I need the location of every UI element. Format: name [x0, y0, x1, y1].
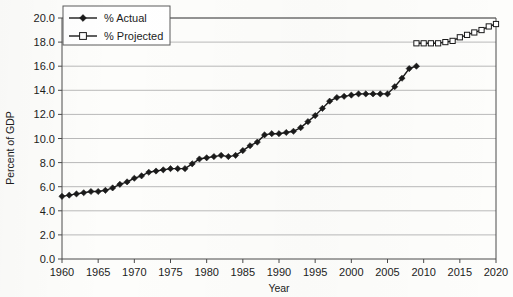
- data-point-actual: [225, 153, 231, 159]
- data-point-actual: [413, 63, 419, 69]
- data-point-projected: [486, 24, 491, 29]
- y-tick-label: 20.0: [34, 12, 55, 24]
- data-point-actual: [88, 188, 94, 194]
- x-tick-label: 2005: [375, 266, 399, 278]
- data-point-projected: [436, 41, 441, 46]
- x-axis-ticks: 1960196519701975198019851990199520002005…: [50, 259, 508, 278]
- data-point-projected: [464, 32, 469, 37]
- x-tick-label: 1980: [194, 266, 218, 278]
- data-point-actual: [269, 131, 275, 137]
- data-point-projected: [479, 27, 484, 32]
- data-point-actual: [66, 192, 72, 198]
- y-tick-label: 8.0: [40, 157, 55, 169]
- data-point-actual: [153, 168, 159, 174]
- x-tick-label: 1970: [122, 266, 146, 278]
- data-point-actual: [131, 175, 137, 181]
- data-point-actual: [160, 167, 166, 173]
- y-tick-label: 18.0: [34, 36, 55, 48]
- data-point-actual: [167, 166, 173, 172]
- data-point-actual: [341, 93, 347, 99]
- x-tick-label: 1985: [231, 266, 255, 278]
- data-point-actual: [81, 190, 87, 196]
- x-tick-label: 2015: [448, 266, 472, 278]
- legend-label-1: % Projected: [104, 30, 163, 42]
- y-axis-title: Percent of GDP: [4, 111, 16, 185]
- data-point-actual: [334, 94, 340, 100]
- y-tick-label: 12.0: [34, 108, 55, 120]
- data-point-projected: [457, 35, 462, 40]
- y-tick-label: 10.0: [34, 133, 55, 145]
- gdp-line-chart: 0.02.04.06.08.010.012.014.016.018.020.0 …: [0, 0, 513, 297]
- data-point-actual: [204, 155, 210, 161]
- series-line-actual: [62, 66, 416, 196]
- data-point-actual: [348, 92, 354, 98]
- data-point-projected: [414, 41, 419, 46]
- data-point-actual: [124, 179, 130, 185]
- y-axis-ticks: 0.02.04.06.08.010.012.014.016.018.020.0: [34, 12, 62, 265]
- data-point-projected: [443, 40, 448, 45]
- data-point-actual: [290, 128, 296, 134]
- legend-label-0: % Actual: [104, 12, 147, 24]
- data-point-actual: [355, 91, 361, 97]
- data-point-actual: [73, 191, 79, 197]
- legend-marker-open-square-icon: [80, 33, 87, 40]
- x-axis-title: Year: [268, 282, 290, 294]
- data-point-actual: [102, 187, 108, 193]
- x-tick-label: 1960: [50, 266, 74, 278]
- data-point-actual: [175, 166, 181, 172]
- x-tick-label: 1975: [158, 266, 182, 278]
- y-tick-label: 6.0: [40, 181, 55, 193]
- y-tick-label: 2.0: [40, 229, 55, 241]
- data-point-projected: [428, 41, 433, 46]
- data-point-actual: [59, 193, 65, 199]
- data-series: [59, 21, 499, 199]
- y-tick-label: 4.0: [40, 205, 55, 217]
- data-point-projected: [450, 38, 455, 43]
- data-point-actual: [138, 173, 144, 179]
- chart-legend: % Actual% Projected: [63, 6, 170, 45]
- data-point-actual: [276, 131, 282, 137]
- y-tick-label: 14.0: [34, 84, 55, 96]
- data-point-projected: [421, 41, 426, 46]
- data-point-actual: [146, 169, 152, 175]
- y-tick-label: 0.0: [40, 253, 55, 265]
- data-point-actual: [363, 91, 369, 97]
- data-point-actual: [110, 185, 116, 191]
- y-tick-label: 16.0: [34, 60, 55, 72]
- x-tick-label: 2010: [411, 266, 435, 278]
- x-tick-label: 1965: [86, 266, 110, 278]
- chart-container: 0.02.04.06.08.010.012.014.016.018.020.0 …: [0, 0, 513, 297]
- data-point-actual: [218, 152, 224, 158]
- data-point-actual: [370, 91, 376, 97]
- x-tick-label: 1990: [267, 266, 291, 278]
- x-tick-label: 2020: [484, 266, 508, 278]
- x-tick-label: 2000: [339, 266, 363, 278]
- data-point-actual: [95, 188, 101, 194]
- gridlines: [62, 18, 496, 235]
- data-point-projected: [472, 30, 477, 35]
- x-tick-label: 1995: [303, 266, 327, 278]
- data-point-actual: [283, 129, 289, 135]
- data-point-actual: [211, 153, 217, 159]
- data-point-actual: [377, 91, 383, 97]
- data-point-projected: [493, 21, 498, 26]
